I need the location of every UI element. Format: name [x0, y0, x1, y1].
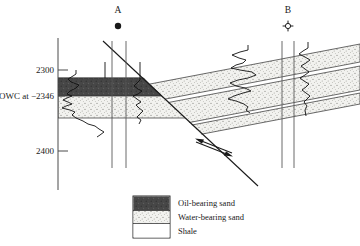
owc-label: OWC at −2346	[0, 91, 54, 101]
depth-axis: 2300 2400 OWC at −2346	[0, 38, 68, 190]
legend-label-water: Water-bearing sand	[178, 212, 245, 222]
well-a-label: A	[115, 5, 122, 15]
injector-well-icon[interactable]	[283, 21, 294, 32]
legend: Oil-bearing sand Water-bearing sand Shal…	[133, 196, 245, 238]
legend-swatch-water	[134, 211, 170, 224]
legend-swatch-shale	[134, 224, 170, 238]
cross-section-figure: 2300 2400 OWC at −2346 A B	[0, 0, 360, 246]
producer-well-icon[interactable]	[115, 23, 121, 29]
fault-slip-arrow-upthrow	[195, 138, 232, 153]
depth-tick-label-2400: 2400	[36, 146, 55, 156]
legend-label-shale: Shale	[178, 226, 197, 236]
depth-tick-label-2300: 2300	[36, 65, 55, 75]
right-fault-block	[150, 44, 360, 144]
well-b-label: B	[285, 5, 291, 15]
legend-swatch-oil	[134, 197, 170, 211]
fault-slip-arrow-downthrow	[196, 142, 233, 157]
legend-label-oil: Oil-bearing sand	[178, 198, 236, 208]
